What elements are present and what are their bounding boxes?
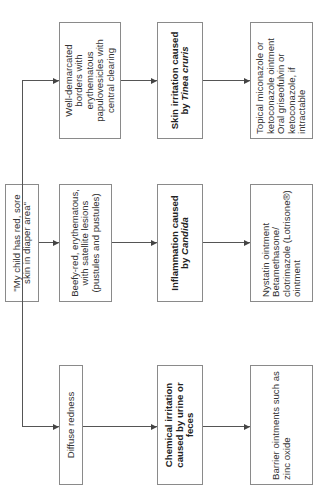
- connector-diagnosis-to-treatment-3: [203, 426, 250, 427]
- treatment-text-tinea: Topical miconazole or ketoconazole ointm…: [255, 27, 307, 134]
- connector-finding-to-diagnosis-3: [83, 426, 157, 427]
- treatment-text-chemical: Barrier ointments such as zinc oxide: [271, 370, 292, 480]
- diagnosis-organism-candida: Candida: [179, 217, 190, 255]
- finding-text-candida: Beefy-red, erythematous, with satellite …: [70, 189, 101, 297]
- diagnosis-organism-tinea: Tinea cruris: [179, 46, 190, 100]
- finding-box-tinea: Well-demarcated borders with erythematou…: [59, 22, 121, 139]
- treatment-box-tinea: Topical miconazole or ketoconazole ointm…: [250, 22, 313, 139]
- diagnosis-box-candida: Inflammation caused by Candida: [157, 184, 203, 302]
- diagnosis-text-chemical: Chemical irritation caused by urine or f…: [164, 370, 195, 480]
- finding-box-chemical: Diffuse redness: [59, 365, 83, 485]
- treatment-box-candida: Nystatin ointment Betamethasone/ clotrim…: [250, 184, 313, 302]
- diagnosis-box-chemical: Chemical irritation caused by urine or f…: [157, 365, 203, 485]
- finding-text-chemical: Diffuse redness: [66, 392, 76, 458]
- finding-box-candida: Beefy-red, erythematous, with satellite …: [59, 184, 112, 302]
- trunk-connector: [22, 80, 23, 427]
- treatment-box-chemical: Barrier ointments such as zinc oxide: [250, 365, 313, 485]
- finding-text-tinea: Well-demarcated borders with erythematou…: [64, 27, 116, 134]
- connector-diagnosis-to-treatment-2: [203, 242, 250, 243]
- treatment-text-candida: Nystatin ointment Betamethasone/ clotrim…: [261, 189, 303, 297]
- connector-diagnosis-to-treatment-1: [203, 80, 250, 81]
- diagnosis-box-tinea: Skin irritation caused by Tinea cruris: [157, 22, 203, 139]
